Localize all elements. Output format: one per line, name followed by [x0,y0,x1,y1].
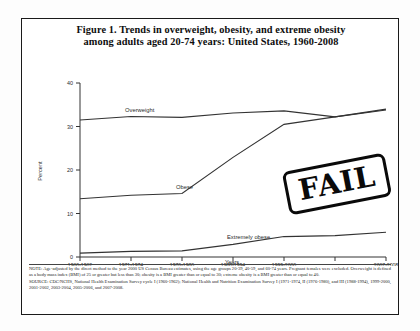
series-label-extremely-obese: Extremely obese [227,234,270,240]
series-label-overweight: Overweight [125,107,155,113]
y-tick-label: 40 [67,80,73,86]
figure-title-line-1: Figure 1. Trends in overweight, obesity,… [34,24,388,36]
y-tick-label: 30 [67,124,73,130]
figure-title-line-2: among adults aged 20-74 years: United St… [34,36,388,48]
figure-notes: NOTE: Age-adjusted by the direct method … [29,266,391,292]
y-tick-label: 20 [67,167,73,173]
series-label-obese: Obese [176,184,193,190]
y-axis: 010203040 [67,80,80,260]
y-tick-label: 0 [70,254,73,260]
figure-frame: Figure 1. Trends in overweight, obesity,… [21,18,399,315]
note-text: NOTE: Age-adjusted by the direct method … [29,266,391,278]
y-axis-ticks: 010203040 [67,80,80,260]
y-tick-label: 10 [67,211,73,217]
y-axis-title: Percent [37,161,43,181]
source-text: SOURCE: CDC/NCHS, National Health Examin… [29,279,391,291]
notes-divider [29,264,391,265]
figure-title: Figure 1. Trends in overweight, obesity,… [34,24,388,49]
document-page: Figure 1. Trends in overweight, obesity,… [0,0,420,331]
